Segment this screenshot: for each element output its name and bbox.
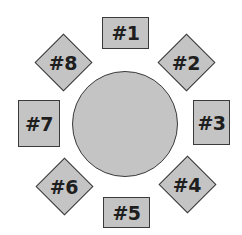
seat-2: #2: [157, 33, 215, 91]
seat-5: #5: [103, 197, 150, 228]
seat-label: #4: [173, 173, 201, 195]
seat-label: #6: [50, 175, 78, 197]
seat-6: #6: [35, 157, 93, 215]
seat-label: #7: [25, 113, 53, 135]
round-table: [72, 71, 178, 177]
seat-8: #8: [34, 33, 92, 91]
seat-7: #7: [18, 100, 60, 147]
seat-4: #4: [158, 155, 216, 213]
seating-diagram: #1 #2 #3 #4 #5 #6 #7 #8: [0, 0, 242, 235]
seat-3: #3: [193, 100, 230, 145]
seat-1: #1: [102, 17, 149, 49]
seat-label: #5: [112, 202, 140, 224]
seat-label: #2: [172, 51, 200, 73]
seat-label: #8: [49, 51, 77, 73]
seat-label: #1: [111, 22, 139, 44]
seat-label: #3: [197, 112, 225, 134]
